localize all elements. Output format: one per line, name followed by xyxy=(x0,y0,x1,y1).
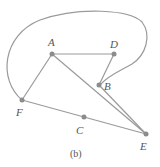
node-C xyxy=(82,115,87,120)
label-A: A xyxy=(47,36,55,48)
edge-F-C xyxy=(22,100,84,117)
node-D xyxy=(112,52,117,57)
edge-A-E xyxy=(52,54,146,134)
caption: (b) xyxy=(70,148,82,160)
node-E xyxy=(144,132,149,137)
node-B xyxy=(97,83,102,88)
label-F: F xyxy=(15,106,23,118)
label-C: C xyxy=(76,124,84,136)
label-E: E xyxy=(139,140,147,152)
graph-diagram: A D B F C E (b) xyxy=(0,0,160,167)
edge-B-E xyxy=(99,85,146,134)
label-D: D xyxy=(109,38,118,50)
label-B: B xyxy=(104,80,111,92)
node-A xyxy=(50,52,55,57)
edge-A-F xyxy=(22,54,52,100)
node-F xyxy=(20,98,25,103)
edge-F-B-curve xyxy=(7,11,147,100)
